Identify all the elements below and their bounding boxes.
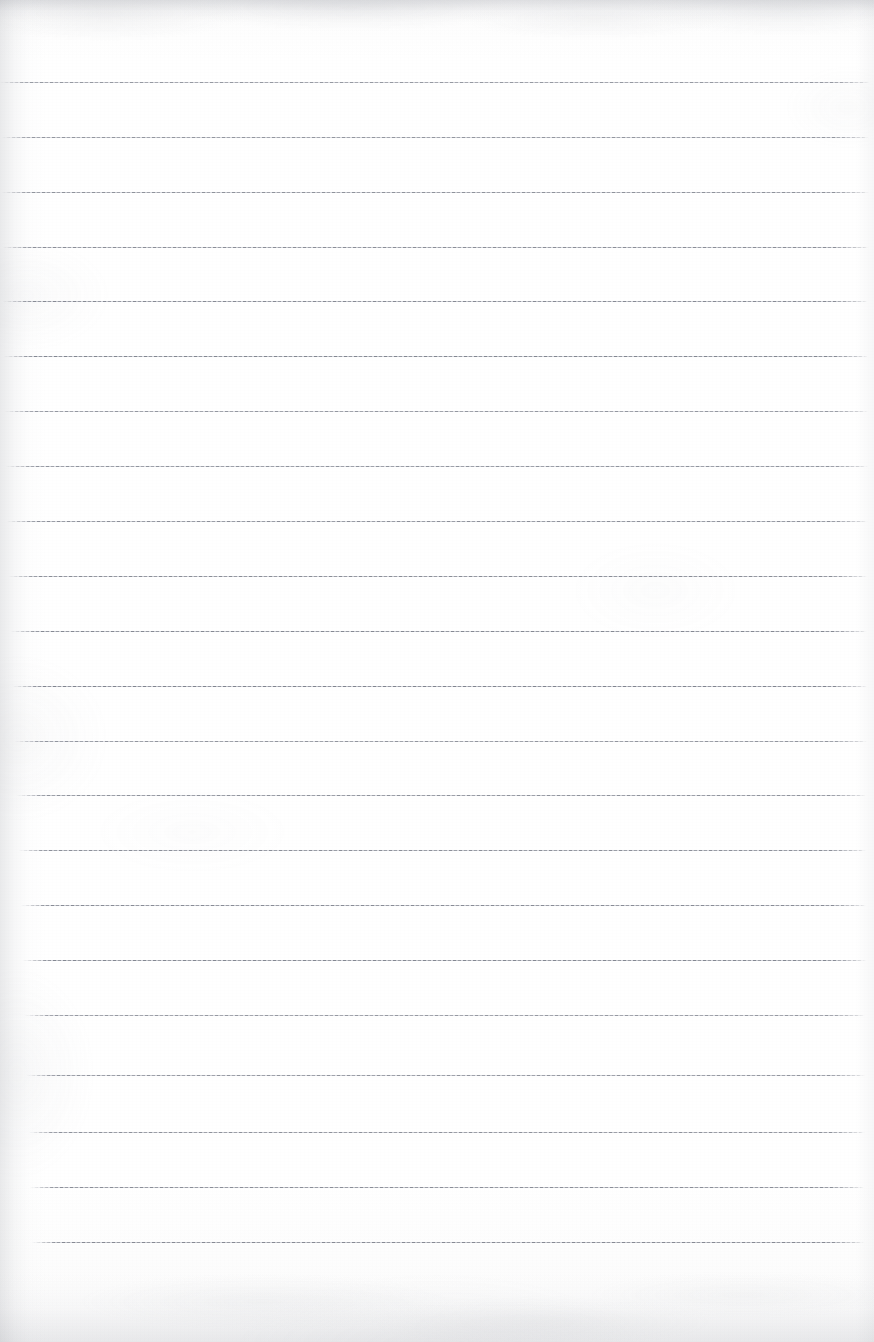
scanned-page: [0, 0, 874, 1342]
paper-background: [0, 0, 874, 1342]
